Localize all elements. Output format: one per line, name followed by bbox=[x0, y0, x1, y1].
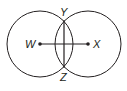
label-x: X bbox=[92, 38, 101, 50]
two-circles-diagram: W X Y Z bbox=[0, 0, 127, 91]
label-w: W bbox=[25, 38, 37, 50]
point-w bbox=[38, 42, 42, 46]
label-z: Z bbox=[59, 71, 68, 83]
point-x bbox=[86, 42, 90, 46]
label-y: Y bbox=[60, 6, 68, 18]
